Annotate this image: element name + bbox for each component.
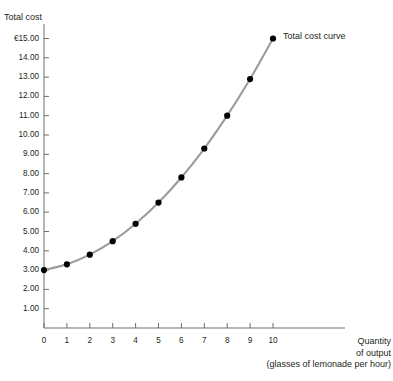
data-point [178, 174, 184, 180]
axis-ticks [44, 39, 273, 329]
x-axis-title-line-1: Quantity [191, 336, 391, 348]
data-point [110, 238, 116, 244]
data-point [201, 145, 207, 151]
data-point [41, 267, 47, 273]
data-point [270, 35, 276, 41]
data-point [155, 199, 161, 205]
x-axis-title-line-2: of output [191, 348, 391, 360]
series-label-total-cost-curve: Total cost curve [283, 31, 346, 42]
total-cost-curve-line [44, 39, 273, 271]
data-point-markers [41, 35, 276, 273]
data-point [247, 76, 253, 82]
axis-lines [44, 24, 345, 328]
total-cost-chart: Total cost 1.002.003.004.005.006.007.008… [0, 0, 393, 381]
data-point [224, 113, 230, 119]
plot-area [0, 0, 393, 381]
data-point [64, 261, 70, 267]
x-axis-title-line-3: (glasses of lemonade per hour) [191, 359, 391, 371]
data-point [133, 221, 139, 227]
x-axis-title: Quantity of output (glasses of lemonade … [191, 336, 391, 371]
data-point [87, 252, 93, 258]
